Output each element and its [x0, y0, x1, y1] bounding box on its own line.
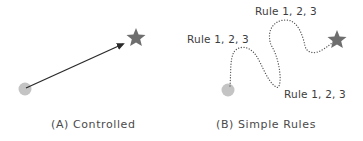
rule-label-left: Rule 1, 2, 3 [187, 33, 249, 45]
goal-star-icon [328, 30, 347, 48]
rule-label-bottom: Rule 1, 2, 3 [284, 88, 346, 100]
caption-a: (A) Controlled [51, 118, 136, 131]
dotted-winding-path [230, 20, 334, 87]
caption-b: (B) Simple Rules [216, 118, 316, 131]
rule-label-top: Rule 1, 2, 3 [255, 5, 317, 17]
goal-star-icon [127, 28, 146, 46]
panel-b-simple-rules [222, 20, 347, 97]
panel-a-controlled [19, 28, 146, 96]
start-circle-icon [19, 83, 32, 96]
direct-arrow [26, 44, 123, 88]
start-circle-icon [222, 84, 235, 97]
